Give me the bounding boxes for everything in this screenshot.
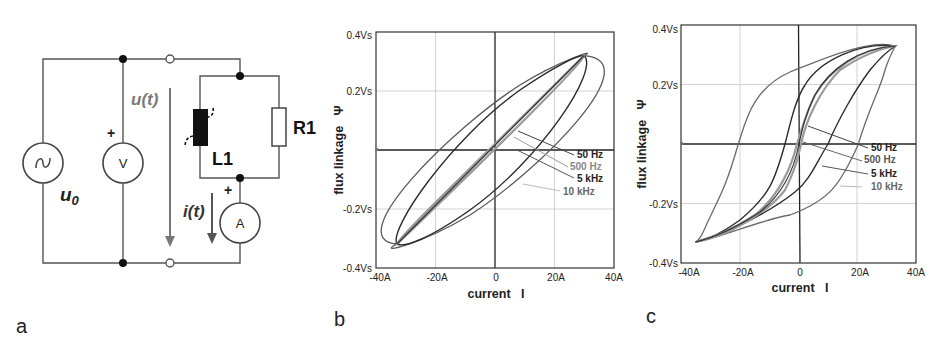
chart-c-xtick: 20A — [851, 267, 869, 278]
chart-b-xtick: 40A — [605, 272, 623, 283]
chart-b-xtick: 0 — [493, 272, 499, 283]
voltmeter-plus-sign: + — [107, 125, 115, 141]
chart-b-ylabel: flux linkage Ψ — [332, 105, 346, 194]
chart-c: 50 Hz 500 Hz 5 kHz 10 kHz 0.4Vs 0.2Vs -0… — [635, 24, 925, 295]
chart-c-ylabel: flux linkage Ψ — [635, 99, 649, 188]
ammeter-plus-sign: + — [224, 182, 232, 198]
legend-50hz: 50 Hz — [871, 142, 897, 153]
legend-500hz: 500 Hz — [570, 161, 602, 172]
voltmeter-label: V — [119, 156, 128, 171]
voltage-label: u(t) — [131, 90, 159, 109]
chart-c-xlabel: current I — [772, 281, 829, 295]
current-label: i(t) — [183, 202, 205, 221]
inductor-l1 — [185, 108, 213, 147]
legend-500hz: 500 Hz — [864, 154, 896, 165]
chart-c-ytick: 0.2Vs — [652, 80, 678, 91]
chart-b-xtick: -40A — [369, 272, 390, 283]
r1-wire-top — [240, 76, 279, 108]
chart-c-xtick: 0 — [797, 267, 803, 278]
chart-b-ytick: -0.4Vs — [343, 263, 372, 274]
chart-c-xtick: 40A — [907, 267, 925, 278]
figure-canvas: u0 V + u(t) L1 R1 A + i(t) — [0, 0, 948, 353]
chart-b-ytick: -0.2Vs — [343, 204, 372, 215]
series-10khz — [696, 44, 896, 242]
chart-c-xtick: -40A — [678, 267, 699, 278]
legend-5khz: 5 kHz — [871, 168, 897, 179]
voltage-arrow — [165, 88, 175, 247]
chart-c-series — [696, 44, 896, 242]
legend-5khz: 5 kHz — [577, 173, 603, 184]
chart-c-xtick: -20A — [732, 267, 753, 278]
chart-b-xtick: -20A — [426, 272, 447, 283]
legend-50hz: 50 Hz — [577, 149, 603, 160]
chart-b-zero-tick — [375, 148, 378, 151]
panel-label-c: c — [646, 305, 656, 327]
ammeter-label: A — [236, 216, 245, 231]
chart-c-ytick: -0.4Vs — [649, 258, 678, 269]
resistor-r1 — [272, 108, 286, 146]
nonlinear-core-mark — [208, 108, 213, 117]
chart-b-ytick: 0.2Vs — [346, 86, 372, 97]
r1-wire-bottom — [240, 146, 279, 178]
chart-c-legend-leaders — [803, 126, 868, 187]
resistor-label: R1 — [293, 118, 316, 138]
ammeter: A — [220, 203, 260, 243]
chart-c-ytick: 0.4Vs — [652, 24, 678, 35]
chart-b-series — [381, 53, 604, 248]
chart-b: 50 Hz 500 Hz 5 kHz 10 kHz 0.4Vs 0.2Vs -0… — [332, 30, 623, 301]
current-arrow — [207, 193, 217, 244]
panel-label-a: a — [16, 315, 28, 337]
panel-label-b: b — [334, 308, 345, 330]
chart-b-xtick: 20A — [547, 272, 565, 283]
inductor-label: L1 — [212, 149, 233, 169]
chart-b-ytick: 0.4Vs — [346, 30, 372, 41]
l1-wire-top — [200, 76, 240, 109]
legend-10khz: 10 kHz — [871, 181, 903, 192]
chart-b-xlabel: current I — [468, 287, 525, 301]
source-label: u0 — [60, 184, 80, 208]
voltmeter: V — [103, 143, 143, 183]
chart-c-ytick: -0.2Vs — [649, 199, 678, 210]
legend-10khz: 10 kHz — [563, 186, 595, 197]
ac-source — [23, 143, 63, 183]
chart-c-zero-tick — [680, 142, 683, 145]
